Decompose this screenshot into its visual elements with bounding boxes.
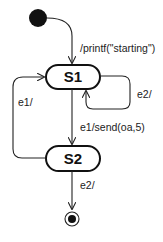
state-s1[interactable]: S1 bbox=[46, 65, 100, 89]
transition-s1-s1-label: e2/ bbox=[137, 88, 152, 100]
transition-s2-final-label: e2/ bbox=[80, 179, 95, 191]
final-state bbox=[65, 212, 79, 226]
initial-transition-label: /printf("starting") bbox=[80, 42, 155, 54]
state-s1-label: S1 bbox=[64, 68, 82, 85]
transition-s1-s2-label: e1/send(oa,5) bbox=[80, 121, 145, 133]
transition-s2-s1 bbox=[13, 77, 46, 158]
state-s2[interactable]: S2 bbox=[46, 146, 100, 171]
initial-pseudostate bbox=[29, 9, 47, 27]
initial-transition bbox=[47, 18, 72, 63]
state-diagram: /printf("starting") S1 e2/ e1/send(oa,5)… bbox=[0, 0, 163, 242]
transition-s2-s1-label: e1/ bbox=[18, 96, 33, 108]
state-s2-label: S2 bbox=[64, 150, 82, 167]
